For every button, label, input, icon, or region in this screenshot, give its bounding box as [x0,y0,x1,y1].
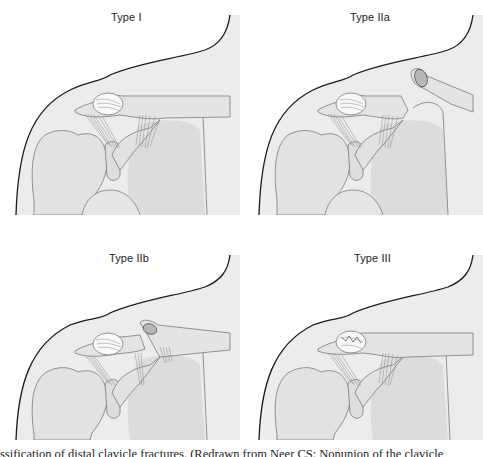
figure-caption: ssification of distal clavicle fractures… [0,446,483,457]
panel-type-iib: Type IIb [0,225,240,440]
shoulder-illustration-type-iia [243,0,483,215]
panel-label: Type I [111,11,142,23]
panel-type-i: Type I [0,0,240,215]
panel-type-iii: Type III [243,225,483,440]
panel-type-iia: Type IIa [243,0,483,215]
clavicle-fracture-classification-figure: Type I Type IIa [0,0,483,457]
panel-label: Type III [354,252,391,264]
panel-label: Type IIb [109,252,149,264]
shoulder-illustration-type-i [0,0,240,215]
panel-label: Type IIa [350,11,390,23]
